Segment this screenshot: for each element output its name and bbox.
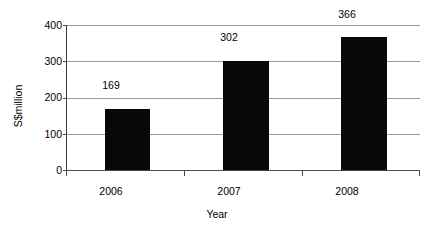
bar-2006	[105, 109, 150, 170]
bar-2008	[341, 37, 387, 170]
y-tick-label: 300	[34, 56, 62, 67]
y-axis-title: S$million	[9, 26, 27, 186]
y-tick-label: 100	[34, 129, 62, 140]
x-axis-title: Year	[0, 208, 434, 220]
x-tick-mark-2	[302, 170, 303, 176]
y-tick-mark-200	[63, 98, 67, 99]
y-tick-label: 0	[34, 165, 62, 176]
y-axis-tick-labels: 400 300 200 100 0	[34, 0, 62, 229]
x-tick-mark-start	[66, 170, 67, 176]
y-tick-label: 400	[34, 20, 62, 31]
bar-chart: S$million 400 300 200 100 0 169 302 366 …	[0, 0, 434, 229]
y-tick-mark-400	[63, 25, 67, 26]
y-tick-mark-300	[63, 61, 67, 62]
x-tick-mark-end	[419, 170, 420, 176]
bar-value-label-2006: 169	[86, 80, 136, 91]
x-tick-mark-1	[184, 170, 185, 176]
bar-value-label-2007: 302	[204, 32, 254, 43]
x-tick-label-2008: 2008	[322, 186, 372, 197]
bar-2007	[223, 61, 269, 171]
y-tick-label: 200	[34, 92, 62, 103]
plot-area	[66, 25, 420, 170]
x-tick-label-2006: 2006	[86, 186, 136, 197]
x-axis-tick-marks	[66, 170, 420, 177]
y-tick-mark-100	[63, 134, 67, 135]
gridline-400	[67, 25, 420, 26]
bar-value-label-2008: 366	[322, 9, 372, 20]
x-tick-label-2007: 2007	[204, 186, 254, 197]
